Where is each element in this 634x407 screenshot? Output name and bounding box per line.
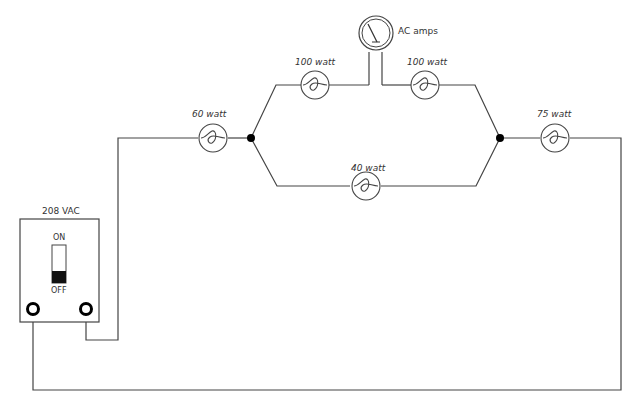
meter-label: AC amps (398, 26, 438, 36)
terminal-left (28, 304, 39, 315)
wire-source-to-60w (86, 138, 198, 340)
wire-75w-return (33, 138, 621, 390)
lamp-label: 60 watt (192, 109, 226, 119)
junction-node-right (496, 134, 504, 142)
ammeter-icon (359, 16, 393, 50)
lamp-icon (199, 124, 227, 152)
junction-node-left (247, 134, 255, 142)
terminal-right (81, 304, 92, 315)
lamp-label: 40 watt (351, 163, 385, 173)
source-label: 208 VAC (42, 206, 80, 216)
lamp-icon (541, 124, 569, 152)
lamp-icon (301, 71, 329, 99)
lamp-icon (411, 71, 439, 99)
lamp-label: 100 watt (295, 57, 335, 67)
lamp-label: 100 watt (407, 57, 447, 67)
lamp-label: 75 watt (537, 109, 571, 119)
wire-lower (251, 138, 350, 186)
lamp-icon (352, 172, 380, 200)
wire-upper-left (251, 85, 301, 138)
switch-on-label: ON (53, 233, 65, 242)
switch-off-label: OFF (51, 286, 67, 295)
wire-upper-right (439, 85, 500, 138)
